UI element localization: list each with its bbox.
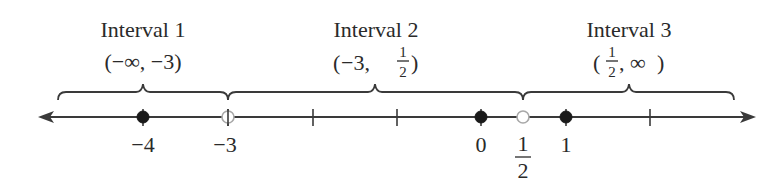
interval-1-notation: (−∞, −3)	[104, 49, 181, 74]
interval-3-close-paren: )	[657, 50, 664, 75]
label-one-half-num: 1	[518, 131, 529, 156]
label-one-half: 1 2	[515, 131, 531, 183]
interval-3-brace	[523, 84, 734, 100]
interval-3-frac-num: 1	[608, 44, 616, 60]
interval-3-frac-den: 2	[608, 64, 616, 80]
point-1-filled	[560, 111, 572, 123]
label-one-half-den: 2	[518, 158, 529, 183]
interval-3-open-paren: (	[593, 50, 600, 75]
interval-1-header: Interval 1 (−∞, −3)	[101, 17, 186, 74]
label-1: 1	[561, 132, 572, 157]
interval-2-frac-num: 1	[399, 44, 407, 60]
interval-1-title: Interval 1	[101, 17, 186, 42]
label-minus-3: −3	[213, 132, 236, 157]
interval-2-title: Interval 2	[334, 17, 419, 42]
interval-2-left: −3,	[341, 50, 370, 75]
interval-2-frac-den: 2	[399, 64, 407, 80]
number-line-figure: Interval 1 (−∞, −3) Interval 2 ( −3, 1 2…	[0, 0, 782, 188]
label-0: 0	[476, 132, 487, 157]
point-0-filled	[475, 111, 487, 123]
interval-3-right: , ∞	[619, 50, 646, 75]
label-minus-4: −4	[131, 132, 154, 157]
interval-2-brace	[228, 84, 523, 100]
interval-2-header: Interval 2 ( −3, 1 2 )	[333, 17, 418, 80]
interval-2-open-paren: (	[333, 50, 340, 75]
interval-3-title: Interval 3	[587, 17, 672, 42]
point-minus-4-filled	[137, 111, 149, 123]
interval-2-close-paren: )	[411, 50, 418, 75]
interval-1-brace	[58, 84, 228, 100]
interval-3-header: Interval 3 ( 1 2 , ∞ )	[587, 17, 672, 80]
point-one-half-open	[517, 111, 529, 123]
